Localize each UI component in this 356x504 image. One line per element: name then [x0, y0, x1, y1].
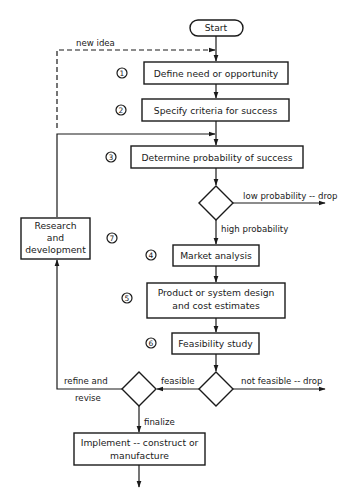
step-1-number: 1	[120, 69, 125, 78]
step-5-label-line2: and cost estimates	[172, 300, 260, 311]
step-6-label: Feasibility study	[178, 338, 253, 349]
finalize-label: finalize	[144, 417, 175, 427]
step-1-label: Define need or opportunity	[154, 68, 279, 79]
step-4-number: 4	[149, 251, 154, 260]
step-7-label-line3: development	[25, 244, 86, 255]
refine-label-line1: refine and	[64, 376, 108, 386]
new-idea-label: new idea	[76, 38, 115, 48]
step-7-number: 7	[110, 234, 115, 243]
feasible-label: feasible	[161, 376, 195, 386]
step-7-label-line2: and	[47, 232, 64, 243]
low-probability-label: low probability -- drop	[243, 191, 337, 201]
step-3-label: Determine probability of success	[141, 152, 292, 163]
feasibility-decision	[199, 372, 233, 406]
flowchart: Start new idea 1 Define need or opportun…	[0, 0, 356, 504]
step-5-label-line1: Product or system design	[158, 287, 275, 298]
high-probability-label: high probability	[221, 224, 288, 234]
step-5-number: 5	[125, 294, 130, 303]
implement-label-line2: manufacture	[110, 450, 169, 461]
step-2-number: 2	[119, 106, 124, 115]
refine-label-line2: revise	[75, 393, 101, 403]
step-3-number: 3	[109, 153, 114, 162]
start-label: Start	[205, 22, 228, 33]
probability-decision	[199, 186, 233, 220]
not-feasible-label: not feasible -- drop	[241, 376, 323, 386]
step-4-label: Market analysis	[180, 250, 252, 261]
step-7-label-line1: Research	[34, 220, 76, 231]
step-2-label: Specify criteria for success	[154, 105, 278, 116]
implement-label-line1: Implement -- construct or	[81, 437, 199, 448]
step-6-number: 6	[149, 339, 154, 348]
refine-decision	[122, 372, 156, 406]
